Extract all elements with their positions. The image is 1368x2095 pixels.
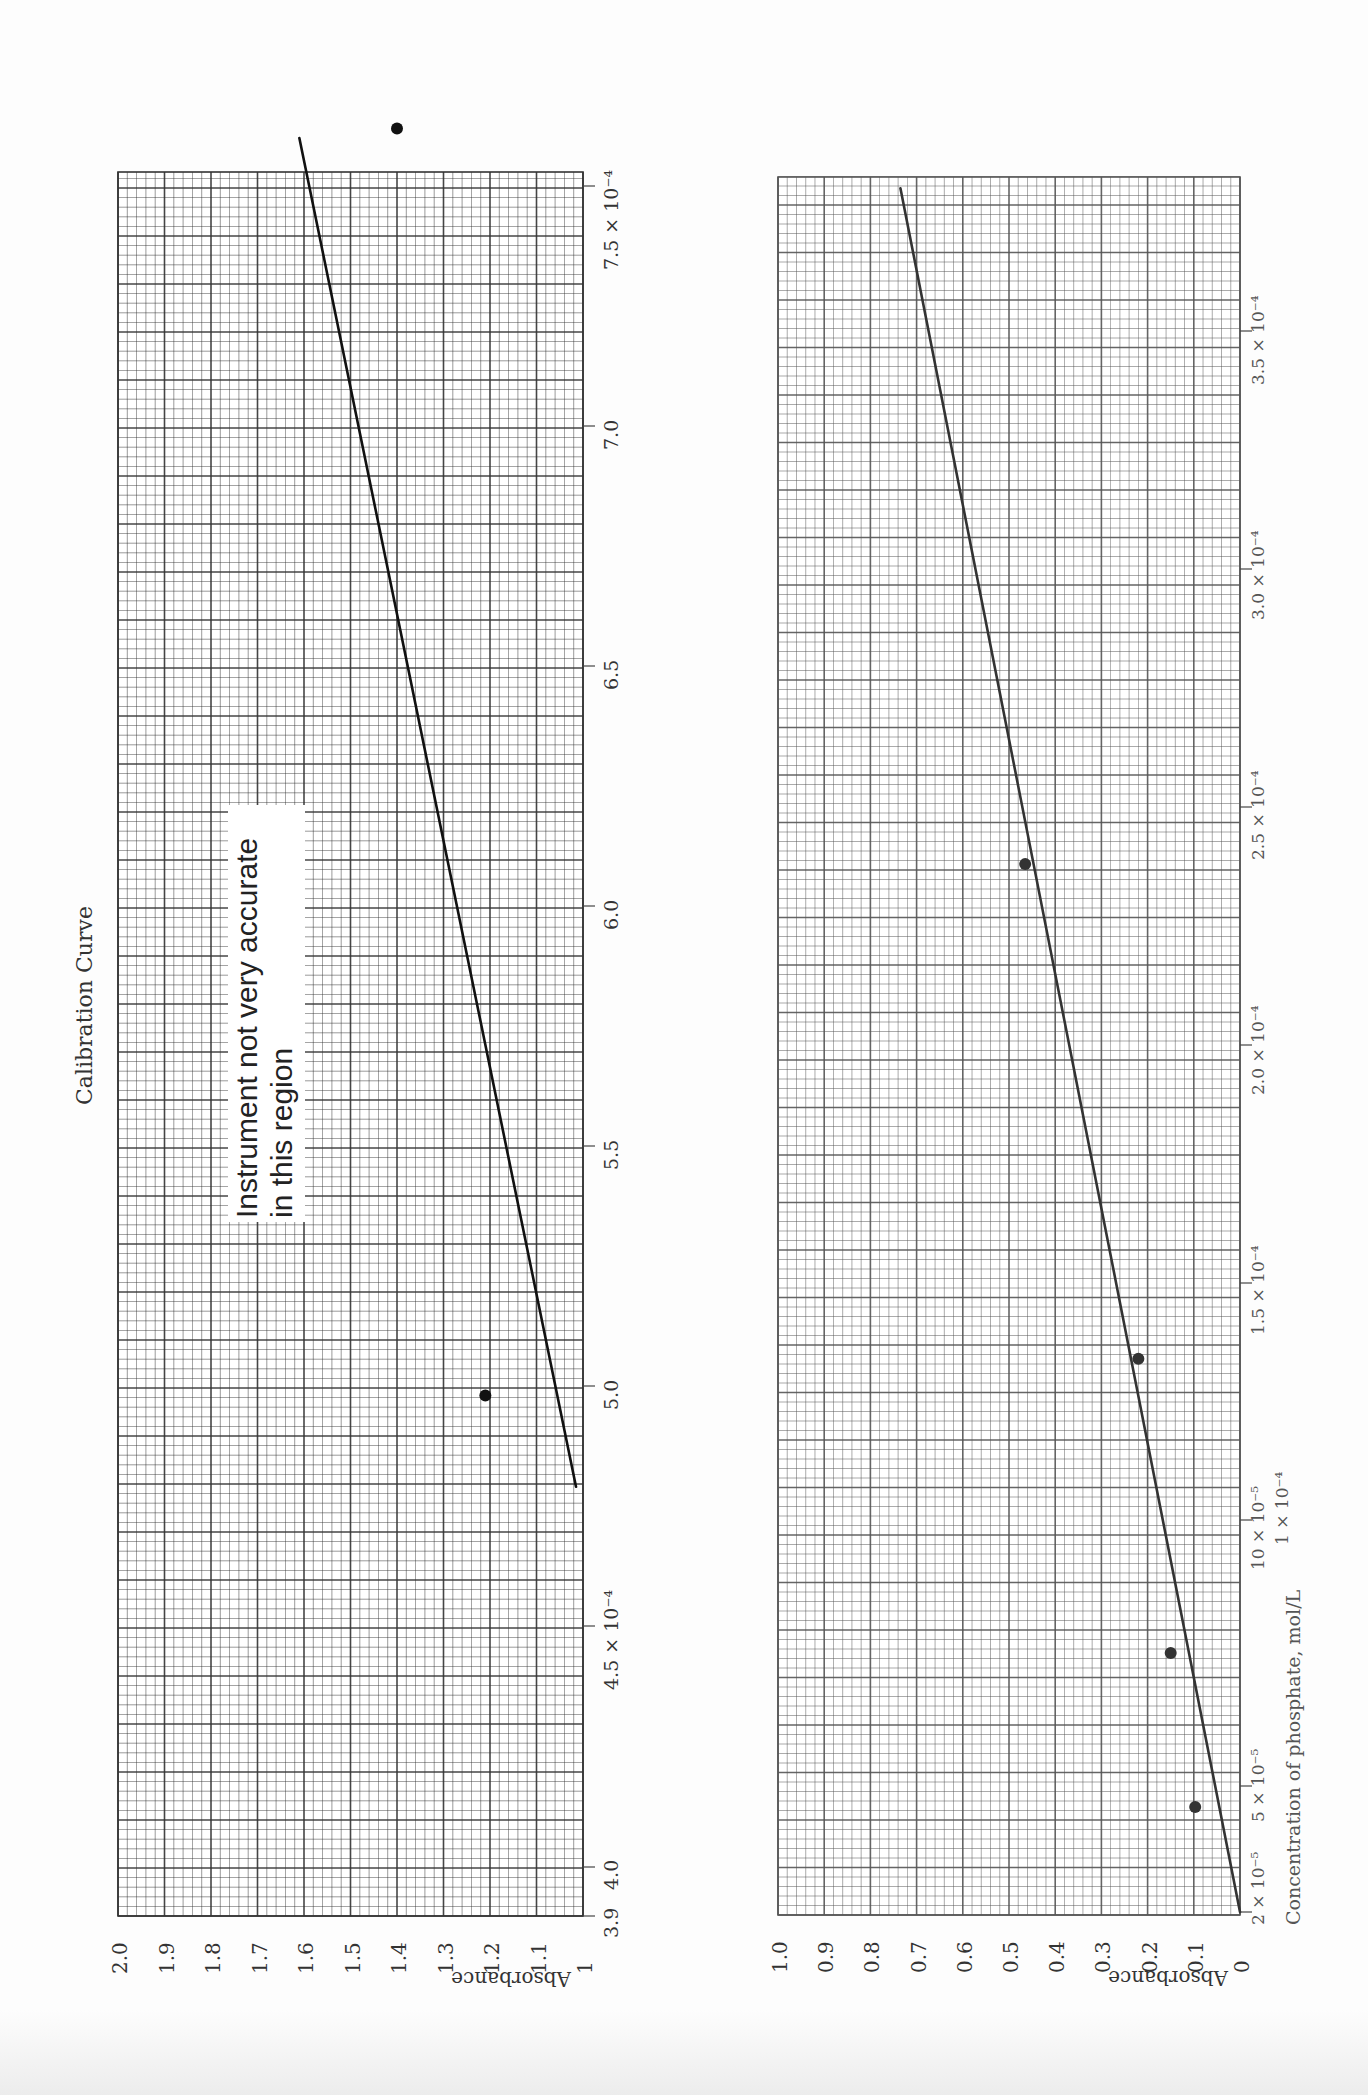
- y-tick-label: 1.8: [201, 1942, 225, 1974]
- data-point: [391, 122, 403, 134]
- y-tick-label: 1.5: [341, 1942, 365, 1974]
- y-tick-label: 1.7: [248, 1942, 272, 1974]
- x-tick-label: 3.9: [600, 1908, 622, 1938]
- y-tick-label: 0.5: [999, 1941, 1023, 1973]
- y-tick-label: 0.8: [860, 1941, 884, 1973]
- chart-1: [118, 122, 595, 1916]
- calibration-charts: [0, 0, 1368, 2095]
- x-tick-label: 1 × 10⁻⁴: [1272, 1472, 1292, 1545]
- y-tick-label: 0.4: [1045, 1941, 1069, 1973]
- x-tick-label: 5.5: [600, 1140, 622, 1170]
- x-tick-label: 7.0: [600, 420, 622, 450]
- x-tick-label: 6.5: [600, 660, 622, 690]
- y-tick-label: 0.9: [814, 1941, 838, 1973]
- y-tick-label: 1.9: [155, 1942, 179, 1974]
- data-point: [1165, 1647, 1177, 1659]
- chart-2: [778, 177, 1252, 1916]
- data-point: [1189, 1801, 1201, 1813]
- data-point: [479, 1390, 491, 1402]
- y-axis-label: Absorbance: [451, 1967, 571, 1991]
- x-axis-label: Concentration of phosphate, mol/L: [1282, 1590, 1304, 1925]
- x-tick-label: 5.0: [600, 1380, 622, 1410]
- data-point: [1132, 1353, 1144, 1365]
- y-tick-label: 1.4: [387, 1942, 411, 1974]
- x-tick-label: 7.5 × 10⁻⁴: [600, 170, 622, 270]
- annotation-line-1: Instrument not very accurate: [230, 838, 264, 1218]
- x-tick-label: 2 × 10⁻⁵: [1248, 1852, 1268, 1925]
- y-axis-label: Absorbance: [1108, 1966, 1228, 1990]
- x-tick-label: 3.0 × 10⁻⁴: [1248, 530, 1268, 620]
- y-tick-label: 0.7: [907, 1941, 931, 1973]
- x-tick-label: 5 × 10⁻⁵: [1248, 1749, 1268, 1822]
- x-tick-label: 6.0: [600, 900, 622, 930]
- y-tick-label: 1: [573, 1961, 597, 1974]
- chart-page: Calibration Curve Instrument not very ac…: [0, 0, 1368, 2095]
- x-tick-label: 4.0: [600, 1860, 622, 1890]
- x-tick-label: 2.5 × 10⁻⁴: [1248, 770, 1268, 860]
- x-tick-label: 10 × 10⁻⁵: [1248, 1486, 1268, 1570]
- data-point: [1019, 858, 1031, 870]
- y-tick-label: 0.6: [953, 1941, 977, 1973]
- page-edge-shadow: [0, 2010, 1368, 2095]
- chart-title: Calibration Curve: [72, 906, 97, 1105]
- x-tick-label: 1.5 × 10⁻⁴: [1248, 1245, 1268, 1335]
- annotation-line-2: in this region: [265, 1048, 299, 1218]
- y-tick-label: 1.0: [768, 1941, 792, 1973]
- x-tick-label: 4.5 × 10⁻⁴: [600, 1590, 622, 1690]
- x-tick-label: 3.5 × 10⁻⁴: [1248, 295, 1268, 385]
- x-tick-label: 2.0 × 10⁻⁴: [1248, 1005, 1268, 1095]
- y-tick-label: 1.6: [294, 1942, 318, 1974]
- y-tick-label: 0: [1230, 1960, 1254, 1973]
- y-tick-label: 2.0: [108, 1942, 132, 1974]
